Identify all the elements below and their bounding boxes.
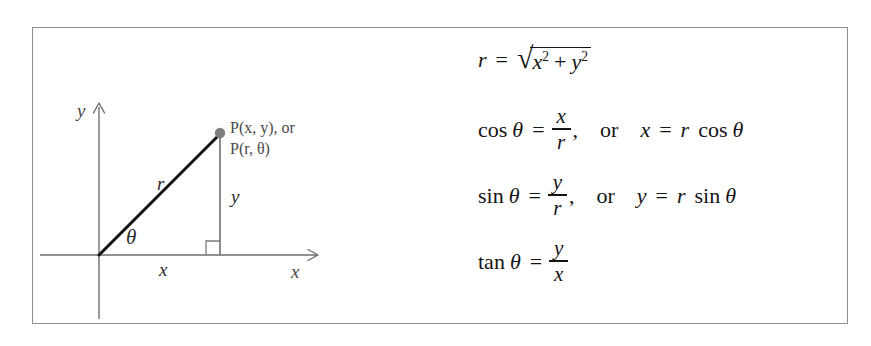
radicand-y-exponent: 2 [581, 49, 588, 64]
cos-theta: θ [512, 117, 523, 143]
point-p-marker [215, 128, 225, 138]
figure-root: y x r θ y x P(x, y), or P(r, θ) r = √ x2… [0, 0, 871, 346]
cos-fraction: x r [552, 105, 571, 153]
tan-theta: θ [510, 249, 521, 275]
radicand: x2+y2 [530, 47, 591, 75]
tan-function-name: tan [478, 249, 505, 275]
angle-theta-label: θ [126, 227, 136, 248]
sin-alt-coefficient: r [677, 183, 686, 209]
sin-alt-lhs: y [637, 183, 647, 209]
cos-alt-equals: = [659, 117, 671, 143]
sin-alt-function-name: sin [695, 183, 721, 209]
cos-function-name: cos [478, 117, 507, 143]
sin-conjunction: or [596, 183, 614, 209]
radicand-y: y [571, 49, 581, 74]
cos-comma: , [573, 117, 579, 143]
sin-function-name: sin [478, 183, 504, 209]
sin-numerator: y [549, 171, 566, 193]
equation-cosine-definition: cos θ = x r , or x = r cos θ [478, 106, 743, 154]
eq-r-equals: = [496, 47, 508, 73]
diagram-svg [32, 27, 432, 324]
equation-r-definition: r = √ x2+y2 [478, 46, 591, 74]
tan-numerator: y [550, 237, 567, 259]
cos-denominator: r [553, 131, 569, 153]
x-axis-label: x [291, 262, 299, 281]
horizontal-leg-label: x [159, 260, 167, 279]
coordinate-diagram: y x r θ y x P(x, y), or P(r, θ) [32, 27, 432, 324]
vertical-leg-label: y [231, 187, 239, 206]
tan-denominator: x [550, 263, 567, 285]
sin-theta: θ [509, 183, 520, 209]
radicand-x: x [532, 49, 542, 74]
cos-conjunction: or [600, 117, 618, 143]
point-label-polar: P(r, θ) [230, 139, 270, 159]
cos-equals: = [532, 117, 544, 143]
sin-fraction: y r [548, 171, 567, 219]
equation-tangent-definition: tan θ = y x [478, 238, 570, 286]
sin-alt-equals: = [656, 183, 668, 209]
hypotenuse-segment [99, 134, 220, 255]
y-axis-label: y [77, 101, 85, 120]
hypotenuse-label: r [157, 174, 164, 193]
sin-equals: = [529, 183, 541, 209]
sin-comma: , [569, 183, 575, 209]
cos-alt-function-name: cos [698, 117, 727, 143]
sin-denominator: r [549, 197, 565, 219]
eq-r-lhs: r [478, 47, 487, 73]
cos-alt-lhs: x [640, 117, 650, 143]
equations-panel: r = √ x2+y2 cos θ = x r , [470, 38, 840, 318]
right-angle-marker [206, 241, 220, 255]
cos-numerator: x [552, 105, 569, 127]
radicand-plus: + [554, 49, 566, 74]
cos-alt-theta: θ [732, 117, 743, 143]
radicand-x-exponent: 2 [542, 49, 549, 64]
sin-alt-theta: θ [725, 183, 736, 209]
cos-alt-coefficient: r [681, 117, 690, 143]
point-label-cartesian: P(x, y), or [230, 118, 295, 138]
equation-sine-definition: sin θ = y r , or y = r sin θ [478, 172, 736, 220]
tan-fraction: y x [549, 237, 568, 285]
tan-equals: = [530, 249, 542, 275]
radical-group: √ x2+y2 [517, 46, 591, 74]
